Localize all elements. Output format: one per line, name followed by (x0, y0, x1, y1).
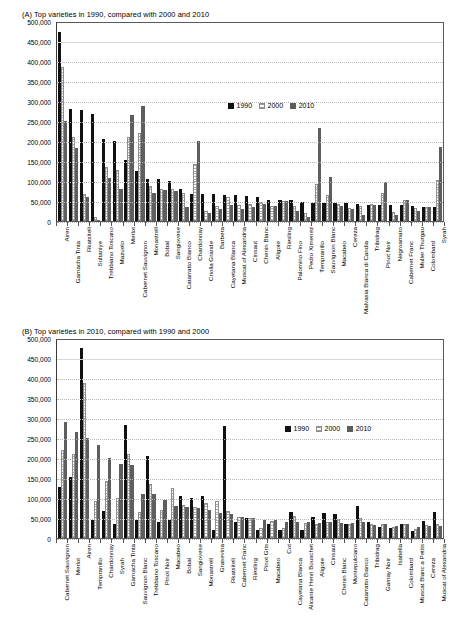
bar-2010 (428, 207, 431, 221)
x-axis-category-label: Cabernet Sauvignon (64, 544, 70, 600)
bar-2010 (362, 522, 365, 538)
grid-line (57, 459, 443, 460)
x-axis-tick (134, 222, 135, 226)
bar-2010 (395, 215, 398, 221)
y-axis-tick-label: 450,000 (27, 39, 51, 46)
x-axis-category-label: Riesling (252, 558, 258, 580)
bar-2010 (185, 207, 188, 221)
bar-2010 (230, 514, 233, 538)
y-axis-tick-label: 300,000 (27, 99, 51, 106)
panel-a-x-axis-labels: AirenGarnacha TintaRkatsiteliSultaniyeTr… (56, 227, 444, 319)
x-axis-tick (422, 539, 423, 543)
y-axis-tick-label: 100,000 (27, 496, 51, 503)
y-axis-tick-label: 50,000 (31, 199, 51, 206)
x-axis-category-label: Airen (86, 544, 92, 558)
legend-swatch-2010 (290, 103, 296, 109)
x-axis-tick (300, 539, 301, 543)
bar-2010 (152, 193, 155, 221)
legend-item: 2000 (316, 425, 340, 432)
bar-2010 (241, 209, 244, 221)
legend-label: 2000 (268, 102, 284, 109)
x-axis-tick (433, 222, 434, 226)
x-axis-category-label: Tribidrag (374, 544, 380, 568)
legend-item: 2000 (259, 102, 283, 109)
x-axis-tick (178, 222, 179, 226)
bar-2010 (252, 207, 255, 221)
x-axis-tick (300, 222, 301, 226)
x-axis-category-label: Palomino Fino (297, 241, 303, 281)
x-axis-tick (377, 539, 378, 543)
x-axis-category-label: Sultaniye (97, 241, 103, 266)
x-axis-category-label: Riesling (286, 227, 292, 249)
legend-swatch-2000 (316, 426, 322, 432)
x-axis-tick (256, 539, 257, 543)
x-axis-tick (389, 222, 390, 226)
x-axis-category-label: Macabeo (175, 544, 181, 569)
bar-2010 (75, 148, 78, 221)
y-axis-tick-label: 400,000 (27, 59, 51, 66)
bar-2010 (263, 204, 266, 221)
x-axis-category-label: Garnacha Tinta (75, 241, 81, 283)
bar-1990 (91, 114, 94, 221)
x-axis-tick (267, 222, 268, 226)
chart-panel-b: (B) Top varieties in 2010, compared with… (0, 317, 452, 635)
legend-item: 2010 (290, 102, 314, 109)
x-axis-category-label: Trebbiano Toscano (153, 544, 159, 596)
x-axis-category-label: Barbera (219, 227, 225, 249)
x-axis-tick (355, 539, 356, 543)
x-axis-tick (78, 222, 79, 226)
bar-2010 (230, 205, 233, 221)
x-axis-category-label: Cabernet Sauvignon (142, 241, 148, 297)
x-axis-category-label: Syrah (441, 227, 447, 243)
x-axis-category-label: Criolla Grande (208, 241, 214, 281)
bar-2010 (130, 115, 133, 221)
panel-b-legend: 199020002010 (285, 425, 371, 432)
x-axis-tick (244, 539, 245, 543)
x-axis-tick (222, 222, 223, 226)
grid-line (57, 379, 443, 380)
legend-item: 1990 (228, 102, 252, 109)
x-axis-category-label: Rkatsiteli (86, 227, 92, 252)
bar-2010 (64, 121, 67, 221)
x-axis-category-label: Monastrell (153, 227, 159, 256)
y-axis-tick-label: 350,000 (27, 396, 51, 403)
x-axis-category-label: Garnacha Tinta (130, 544, 136, 586)
x-axis-category-label: Chardonnay (108, 544, 114, 578)
x-axis-category-label: Isabella (397, 544, 403, 565)
x-axis-tick (278, 539, 279, 543)
x-axis-tick (333, 539, 334, 543)
x-axis-category-label: Gamay Noir (385, 558, 391, 591)
y-axis-tick-label: 300,000 (27, 416, 51, 423)
x-axis-category-label: Cabernet Franc (241, 544, 247, 587)
grid-line (57, 62, 443, 63)
panel-b-x-axis-labels: Cabernet SauvignonMerlotAirenTempranillo… (56, 544, 444, 635)
panel-b-plot-area (56, 339, 444, 539)
bar-2010 (219, 209, 222, 221)
bar-2010 (373, 525, 376, 538)
x-axis-tick (289, 222, 290, 226)
x-axis-category-label: Sauvignon Blanc (330, 227, 336, 273)
bar-2010 (86, 197, 89, 221)
bar-2010 (252, 518, 255, 538)
y-axis-tick-label: 200,000 (27, 456, 51, 463)
grid-line (57, 499, 443, 500)
x-axis-category-label: Mazuelo (119, 241, 125, 264)
x-axis-category-label: Muscat of Alexandria (241, 227, 247, 284)
grid-line (57, 202, 443, 203)
bar-2010 (296, 522, 299, 538)
bar-2010 (163, 190, 166, 221)
grid-line (57, 399, 443, 400)
bar-2010 (318, 523, 321, 538)
y-axis-tick-label: 450,000 (27, 356, 51, 363)
x-axis-tick (56, 222, 57, 226)
x-axis-tick (189, 539, 190, 543)
bar-2010 (307, 217, 310, 221)
y-axis-tick-label: 400,000 (27, 376, 51, 383)
x-axis-category-label: Chenin Blanc (263, 227, 269, 264)
y-axis-tick-label: 500,000 (27, 19, 51, 26)
x-axis-tick (311, 222, 312, 226)
x-axis-tick (189, 222, 190, 226)
x-axis-tick (377, 222, 378, 226)
x-axis-tick (278, 222, 279, 226)
x-axis-tick (311, 539, 312, 543)
